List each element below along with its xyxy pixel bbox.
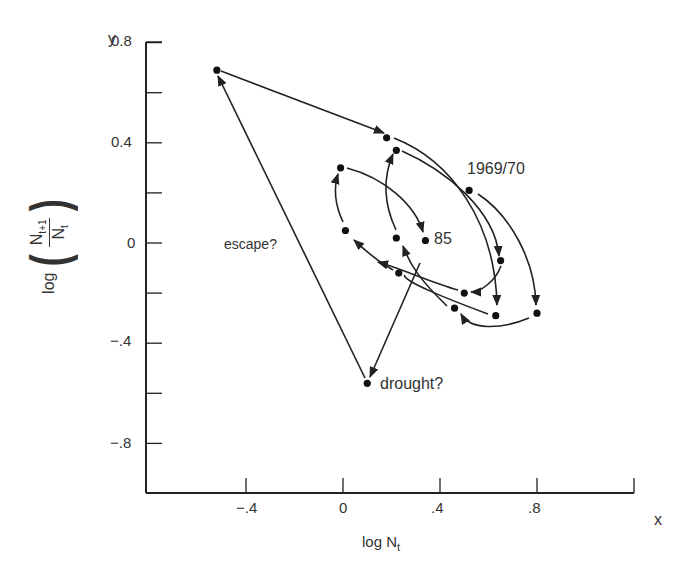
x-tick-label-0.4: .4 — [431, 499, 444, 516]
x-tick-label-0.8: .8 — [528, 499, 541, 516]
data-point-d — [451, 305, 458, 312]
data-point-i — [393, 234, 400, 241]
arrow-to-85 — [347, 168, 423, 232]
data-point-f — [395, 269, 402, 276]
annotation-drought: drought? — [380, 375, 443, 393]
data-points — [213, 67, 540, 387]
arrow-escape-to-cycle — [221, 71, 384, 133]
data-point-b — [533, 310, 540, 317]
arrow-escape-line — [218, 76, 365, 378]
y-tick-label-0.4: 0.4 — [111, 133, 132, 150]
x-axis-letter: x — [654, 511, 662, 529]
data-point-h — [337, 164, 344, 171]
arrow-bottom-3 — [405, 275, 488, 314]
arrow-bottom-5 — [403, 246, 447, 306]
annotation-escape: escape? — [224, 236, 277, 252]
data-point-a — [497, 257, 504, 264]
annotation-1969-70: 1969/70 — [467, 160, 525, 178]
data-point-g — [342, 227, 349, 234]
x-axis-title: log Nt — [362, 533, 400, 553]
y-tick-label-m0.8: −.8 — [110, 434, 131, 451]
y-axis-title: log ( Nt+1 Nt ) — [14, 160, 84, 330]
data-point-e — [461, 290, 468, 297]
x-tick-label-0: 0 — [339, 499, 347, 516]
arrow-left-up — [335, 174, 343, 222]
arrow-to-drought — [370, 263, 420, 377]
data-point-esc — [213, 67, 220, 74]
arrow-1969 — [478, 194, 536, 305]
chart-canvas — [0, 0, 691, 572]
y-tick-label-m0.4: −.4 — [110, 332, 131, 349]
data-point-j — [383, 134, 390, 141]
data-point-k — [393, 147, 400, 154]
data-point-p85 — [422, 237, 429, 244]
annotation-85: 85 — [434, 230, 452, 248]
y-ticks — [146, 43, 162, 444]
trajectory — [218, 71, 536, 378]
y-tick-label-0.8: 0.8 — [111, 32, 132, 49]
data-point-c — [492, 312, 499, 319]
data-point-dry — [364, 380, 371, 387]
data-point-p1969 — [466, 187, 473, 194]
x-ticks — [246, 478, 634, 493]
y-tick-label-0: 0 — [127, 234, 135, 251]
x-tick-label-m0.4: −.4 — [236, 499, 257, 516]
